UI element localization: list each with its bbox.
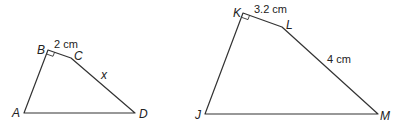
similar-quadrilaterals-diagram: B C A D 2 cm x K L J M 3.2 cm 4 cm [0, 0, 402, 130]
right-angle-marker-k [242, 15, 250, 19]
right-angle-marker-b [47, 52, 55, 56]
quadrilateral-jklm: K L J M 3.2 cm 4 cm [194, 3, 390, 123]
side-label-kl: 3.2 cm [254, 3, 287, 15]
side-label-cd: x [100, 68, 108, 82]
vertex-label-a: A [11, 106, 20, 120]
vertex-label-c: C [74, 49, 83, 63]
vertex-label-k: K [233, 6, 242, 20]
vertex-label-b: B [37, 43, 45, 57]
vertex-label-d: D [139, 107, 148, 121]
vertex-label-l: L [286, 18, 293, 32]
side-label-bc: 2 cm [54, 38, 78, 50]
vertex-label-j: J [194, 108, 202, 122]
side-label-lm: 4 cm [327, 53, 351, 65]
vertex-label-m: M [380, 109, 390, 123]
quadrilateral-abcd: B C A D 2 cm x [11, 38, 148, 121]
